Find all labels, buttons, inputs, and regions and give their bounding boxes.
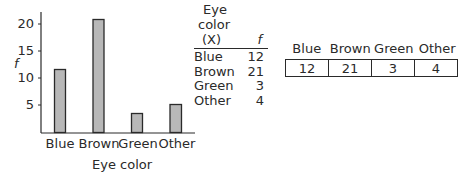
row-value: 3 bbox=[256, 78, 264, 93]
table-row: Blue 12 bbox=[194, 49, 274, 64]
column-header: Brown bbox=[329, 41, 373, 56]
y-tick-label: 20 bbox=[8, 16, 34, 31]
row-label: Green bbox=[194, 78, 233, 93]
header-x: (X) bbox=[202, 32, 221, 47]
row-label: Other bbox=[194, 93, 231, 108]
bar-blue bbox=[55, 70, 66, 133]
table-cell: 21 bbox=[329, 60, 372, 77]
bar-green bbox=[132, 114, 143, 133]
column-header: Green bbox=[372, 41, 416, 56]
frequency-table: Eye color (X) f Blue 12 Brown 21 Green 3… bbox=[194, 2, 274, 107]
row-label: Brown bbox=[194, 64, 235, 79]
table-cell: 3 bbox=[372, 60, 415, 77]
y-tick-label: 5 bbox=[8, 97, 34, 112]
column-header: Other bbox=[416, 41, 459, 56]
header-f: f bbox=[257, 32, 262, 47]
y-tick-label: 10 bbox=[8, 70, 34, 85]
table-row: 12 21 3 4 bbox=[286, 60, 458, 77]
row-label: Blue bbox=[194, 49, 223, 64]
table-row: Brown 21 bbox=[194, 64, 274, 79]
row-value: 4 bbox=[256, 93, 264, 108]
table-row: Green 3 bbox=[194, 78, 274, 93]
horizontal-table-body: 12 21 3 4 bbox=[285, 59, 458, 77]
table-cell: 12 bbox=[286, 60, 329, 77]
y-axis-label: f bbox=[14, 56, 19, 71]
header-eye: Eye bbox=[203, 2, 227, 17]
horizontal-table-headers: Blue Brown Green Other bbox=[285, 41, 459, 56]
x-axis-title: Eye color bbox=[92, 157, 152, 172]
bar-brown bbox=[93, 20, 104, 133]
table-row: Other 4 bbox=[194, 93, 274, 108]
row-value: 21 bbox=[247, 64, 264, 79]
frequency-table-header: Eye color (X) f bbox=[194, 2, 274, 48]
header-color: color bbox=[198, 17, 230, 32]
y-tick-label: 15 bbox=[8, 43, 34, 58]
x-category-label: Other bbox=[152, 136, 202, 151]
bar-other bbox=[170, 105, 182, 133]
column-header: Blue bbox=[285, 41, 329, 56]
horizontal-frequency-table: Blue Brown Green Other 12 21 3 4 bbox=[285, 41, 459, 77]
row-value: 12 bbox=[247, 49, 264, 64]
table-cell: 4 bbox=[415, 60, 458, 77]
